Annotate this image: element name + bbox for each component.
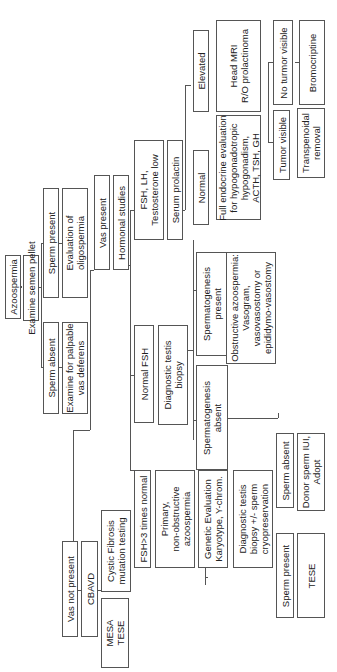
connector bbox=[228, 418, 278, 419]
node-primary-nonobstructive: Primary, non-obstructive azoospermia bbox=[155, 470, 195, 568]
connector bbox=[90, 270, 94, 271]
node-fsh-3x-normal: FSH>3 times normal bbox=[134, 470, 151, 568]
connector bbox=[130, 210, 131, 470]
node-sperm-absent-2: Sperm absent bbox=[276, 433, 294, 508]
node-serum-prolactin: Serum prolactin bbox=[167, 140, 183, 240]
connector bbox=[188, 350, 193, 351]
node-hormonal-studies: Hormonal studies bbox=[113, 175, 129, 270]
connector bbox=[185, 85, 186, 210]
node-bromocriptine: Bromocriptine bbox=[299, 20, 325, 105]
node-full-endocrine-evaluation: Full endocrine evaluation for hypogonado… bbox=[216, 115, 261, 220]
connector bbox=[185, 85, 191, 86]
node-sperm-absent: Sperm absent bbox=[43, 322, 59, 414]
connector bbox=[268, 62, 269, 142]
connector bbox=[205, 577, 208, 578]
node-normal-fsh: Normal FSH bbox=[134, 325, 154, 423]
node-cystic-fibrosis: Cystic Fibrosis mutation testing bbox=[101, 510, 131, 592]
connector bbox=[205, 565, 206, 585]
node-evaluation-oligospermia: Evaluation of oligospermia bbox=[62, 188, 88, 298]
node-elevated: Elevated bbox=[193, 30, 209, 112]
node-obstructive-azoospermia: Obstructive azoospermia: Vasogram, vasov… bbox=[226, 252, 276, 364]
node-vas-present: Vas present bbox=[94, 175, 110, 270]
node-examine-semen-pellet: Examine semen pellet bbox=[23, 255, 39, 321]
connector bbox=[78, 590, 81, 591]
node-tese: TESE bbox=[297, 533, 325, 618]
connector bbox=[90, 270, 91, 430]
node-examine-vas: Examine for palpable vas deferens bbox=[62, 322, 88, 414]
node-diagnostic-biopsy-cryo: Diagnostic testis biopsy +/- sperm cryop… bbox=[233, 470, 273, 568]
connector bbox=[41, 243, 42, 367]
node-sperm-present-2: Sperm present bbox=[276, 533, 294, 618]
node-donor-sperm: Donor sperm IUI, Adopt bbox=[297, 433, 325, 511]
node-tumor-visible: Tumor visible bbox=[273, 110, 290, 180]
connector bbox=[278, 413, 279, 418]
connector bbox=[193, 240, 194, 440]
node-sperm-present: Sperm present bbox=[43, 188, 59, 298]
node-transphenoidal-removal: Transpenoidal removal bbox=[297, 108, 325, 178]
connector bbox=[98, 590, 101, 591]
node-head-mri: Head MRI R/O prolactinoma bbox=[216, 20, 261, 112]
node-spermatogenesis-absent: Spermatogenesis absent bbox=[196, 365, 228, 470]
connector bbox=[21, 286, 22, 288]
connector bbox=[73, 430, 74, 550]
node-vas-not-present: Vas not present bbox=[62, 541, 78, 637]
node-fsh-lh-testosterone-low: FSH, LH, Testosterone low bbox=[134, 140, 164, 240]
node-spermatogenesis-present: Spermatogenesis present bbox=[196, 252, 228, 356]
node-no-tumor-visible: No turmor visible bbox=[273, 20, 293, 105]
node-normal-prolactin: Normal bbox=[193, 150, 209, 225]
node-azoospermia: Azoospermia bbox=[5, 255, 21, 319]
node-cbavd: CBAVD bbox=[81, 541, 98, 637]
connector bbox=[73, 430, 90, 431]
node-mesa-tese: MESA TESE bbox=[101, 598, 129, 668]
node-genetic-evaluation: Genetic Evaluation Karyotype, Y-chrom. bbox=[198, 470, 228, 568]
node-diagnostic-testis-biopsy: Diagnostic testis biopsy bbox=[158, 325, 188, 425]
